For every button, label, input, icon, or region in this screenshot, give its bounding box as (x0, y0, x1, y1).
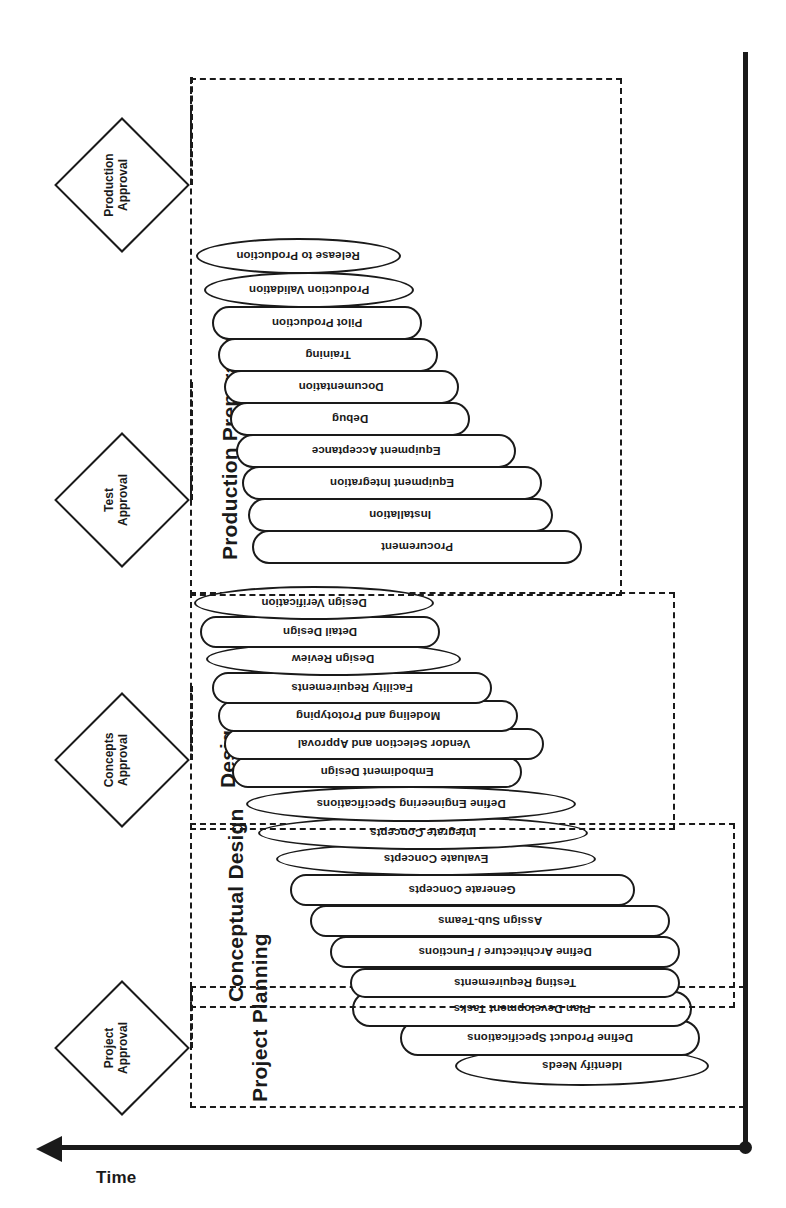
time-axis-arrow-icon (36, 1136, 62, 1162)
axis-origin-dot (739, 1141, 752, 1154)
milestone-test-approval-label: Test Approval (103, 440, 131, 560)
task-documentation[interactable]: Documentation (224, 370, 459, 404)
task-modeling-and-prototyping[interactable]: Modeling and Prototyping (218, 700, 518, 732)
task-installation[interactable]: Installation (248, 498, 553, 532)
task-vendor-selection-and-approval[interactable]: Vendor Selection and Approval (224, 728, 544, 760)
milestone-production-approval-label: Production Approval (103, 125, 131, 245)
task-detail-design[interactable]: Detail Design (200, 616, 440, 648)
task-release-to-production[interactable]: Release to Production (196, 238, 401, 274)
milestone-project-approval-label: Project Approval (103, 988, 131, 1108)
task-testing-requirements[interactable]: Testing Requirements (350, 968, 680, 998)
task-equipment-acceptance[interactable]: Equipment Acceptance (236, 434, 516, 468)
time-axis-horizontal (743, 52, 748, 1148)
task-facility-requirements[interactable]: Facility Requirements (212, 672, 492, 704)
time-axis-label: Time (96, 1168, 137, 1188)
diagram-canvas: Time Project Approval Concepts Approval … (0, 0, 786, 1208)
phase-title-conceptual-design: Conceptual Design (224, 808, 248, 1002)
task-define-architecture-functions[interactable]: Define Architecture / Functions (330, 936, 680, 968)
task-define-engineering-specifications[interactable]: Define Engineering Specifications (246, 786, 576, 822)
diagram-page: Time Project Approval Concepts Approval … (0, 0, 786, 1208)
task-equipment-integration[interactable]: Equipment Integration (242, 466, 542, 500)
task-training[interactable]: Training (218, 338, 438, 372)
milestone-concepts-approval-label: Concepts Approval (103, 700, 131, 820)
task-procurement[interactable]: Procurement (252, 530, 582, 564)
task-embodiment-design[interactable]: Embodiment Design (232, 756, 522, 788)
time-axis-vertical (58, 1145, 748, 1150)
task-debug[interactable]: Debug (230, 402, 470, 436)
task-assign-sub-teams[interactable]: Assign Sub-Teams (310, 905, 670, 937)
task-generate-concepts[interactable]: Generate Concepts (290, 874, 635, 906)
task-production-validation[interactable]: Production Validation (204, 272, 414, 308)
task-pilot-production[interactable]: Pilot Production (212, 306, 422, 340)
